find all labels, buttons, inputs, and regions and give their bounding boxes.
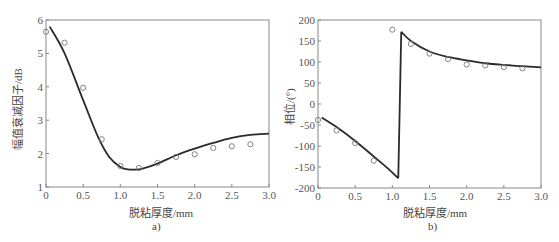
x-tick-label: 2.5 [497,190,511,202]
theory-curve [50,27,269,170]
y-tick-label: 50 [304,77,316,89]
y-tick-label: 5 [38,47,44,59]
x-tick-label: 0 [315,190,321,202]
data-point-marker [229,144,234,149]
data-point-marker [464,62,469,67]
caption-b: b) [428,220,437,232]
x-tick-label: 1.0 [385,190,399,202]
data-point-marker [211,145,216,150]
x-tick-label: 2.0 [188,189,202,201]
chart-amplitude-attenuation: 00.51.01.52.02.53.0123456 幅值衰减因子/dB 脱粘厚度… [0,0,280,242]
data-point-marker [62,40,67,45]
y-tick-label: 6 [38,14,44,26]
x-axis-title-a: 脱粘厚度/mm [129,204,193,220]
y-tick-label: 0 [310,98,316,110]
data-point-marker [81,85,86,90]
y-axis-title-a: 幅值衰减因子/dB [9,68,25,150]
y-tick-label: 1 [38,181,44,193]
y-tick-label: 100 [299,56,316,68]
x-tick-label: 1.0 [113,189,127,201]
x-tick-label: 0 [43,189,49,201]
x-tick-label: 2.5 [225,189,239,201]
axes-frame [46,20,269,187]
data-point-marker [390,27,395,32]
y-tick-label: 4 [38,81,44,93]
data-point-marker [248,142,253,147]
y-tick-label: -100 [295,140,316,152]
theory-curve [322,32,541,179]
x-tick-label: 0.5 [348,190,362,202]
y-axis-title-b: 相位/(°) [281,88,297,125]
data-point-marker [408,41,413,46]
x-tick-label: 1.5 [423,190,437,202]
data-point-marker [192,152,197,157]
x-tick-label: 3.0 [534,190,548,202]
x-axis-title-b: 脱粘厚度/mm [403,204,467,220]
y-tick-label: 2 [38,148,44,160]
y-tick-label: -150 [295,161,316,173]
data-point-marker [334,128,339,133]
chart-phase: 00.51.01.52.02.53.0-200-150-100-50050100… [280,0,559,242]
y-tick-label: 150 [299,35,316,47]
data-point-marker [371,158,376,163]
y-tick-label: 200 [299,14,316,26]
x-tick-label: 0.5 [76,189,90,201]
y-tick-label: -200 [295,182,316,194]
y-tick-label: -50 [300,119,315,131]
x-tick-label: 3.0 [262,189,276,201]
y-tick-label: 3 [38,114,44,126]
x-tick-label: 2.0 [460,190,474,202]
axes-frame [318,20,541,188]
x-tick-label: 1.5 [151,189,165,201]
caption-a: a) [152,220,161,232]
